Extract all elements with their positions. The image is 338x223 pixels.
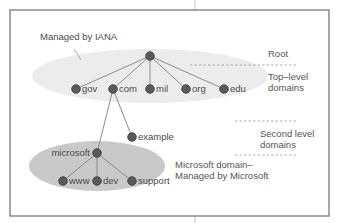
node-label-www: www <box>69 175 90 186</box>
node-microsoft-icon <box>93 149 102 158</box>
node-edu-icon <box>220 85 229 94</box>
second-level-line2: domains <box>260 139 314 150</box>
node-example-icon <box>128 133 137 142</box>
top-level-domains-label: Top–level domains <box>268 71 308 93</box>
microsoft-domain-line1: Microsoft domain– <box>175 159 268 170</box>
node-label-mil: mil <box>156 83 168 94</box>
node-label-dev: dev <box>103 175 118 186</box>
second-level-line1: Second level <box>260 128 314 139</box>
node-dev-icon <box>93 177 102 186</box>
node-com-icon <box>109 85 118 94</box>
second-level-domains-label: Second level domains <box>260 128 314 150</box>
node-mil-icon <box>146 85 155 94</box>
node-gov-icon <box>72 85 81 94</box>
root-level-label: Root <box>268 48 288 59</box>
top-level-line2: domains <box>268 82 308 93</box>
node-label-org: org <box>192 83 206 94</box>
node-label-com: com <box>119 83 137 94</box>
node-label-gov: gov <box>82 83 97 94</box>
top-level-line1: Top–level <box>268 71 308 82</box>
node-label-example: example <box>138 131 174 142</box>
microsoft-domain-line2: Managed by Microsoft <box>175 170 268 181</box>
node-root-icon <box>146 52 155 61</box>
node-www-icon <box>59 177 68 186</box>
microsoft-domain-label: Microsoft domain– Managed by Microsoft <box>175 159 268 181</box>
node-label-support: support <box>138 175 170 186</box>
node-label-microsoft: microsoft <box>51 147 90 158</box>
managed-by-iana-label: Managed by IANA <box>40 31 117 42</box>
dns-hierarchy-diagram: Managed by IANA govcommilorgeduexamplemi… <box>0 0 338 223</box>
node-org-icon <box>182 85 191 94</box>
node-label-edu: edu <box>230 83 246 94</box>
node-support-icon <box>128 177 137 186</box>
